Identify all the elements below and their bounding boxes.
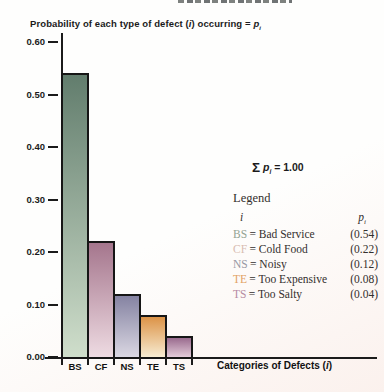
- cropped-page-text-remnant: [178, 0, 292, 3]
- legend-entry-value: (0.22): [350, 242, 378, 257]
- legend-entry-name: TE = Too Expensive: [233, 272, 327, 287]
- y-tick-label: 0.30: [13, 194, 45, 205]
- bar-ns: [113, 294, 141, 359]
- y-tick-label: 0.10: [13, 299, 45, 310]
- y-tick-mark: [48, 146, 58, 148]
- legend-row-cf: CF = Cold Food(0.22): [233, 242, 378, 257]
- x-category-label-te: TE: [140, 361, 166, 372]
- legend-entry-name: BS = Bad Service: [233, 227, 315, 242]
- legend-row-ts: TS = Too Salty(0.04): [233, 287, 378, 302]
- bar-cf: [87, 241, 115, 359]
- sum-probability-annotation: Σ pi = 1.00: [252, 160, 304, 175]
- sigma-icon: Σ: [252, 160, 260, 175]
- bar-chart-figure: Probability of each type of defect (i) o…: [0, 0, 384, 392]
- legend-entry-name: CF = Cold Food: [233, 242, 308, 257]
- bar-bs: [61, 73, 89, 359]
- legend-column-p-subscript: i: [364, 218, 366, 226]
- y-tick-label: 0.60: [13, 36, 45, 47]
- legend-row-te: TE = Too Expensive(0.08): [233, 272, 378, 287]
- x-tick-mark: [87, 358, 89, 365]
- y-tick-label: 0.00: [13, 351, 45, 362]
- y-tick-mark: [48, 356, 58, 358]
- legend-heading: Legend: [233, 191, 378, 206]
- x-category-label-ns: NS: [114, 361, 140, 372]
- legend-entry-value: (0.08): [350, 272, 378, 287]
- x-axis-title-text: Categories of Defects (: [217, 360, 326, 371]
- y-tick-mark: [48, 94, 58, 96]
- y-tick-mark: [48, 251, 58, 253]
- bar-te: [139, 315, 167, 359]
- x-category-label-ts: TS: [166, 361, 192, 372]
- legend-column-p: pi: [358, 211, 366, 226]
- legend-code: BS: [233, 228, 247, 240]
- y-tick-mark: [48, 199, 58, 201]
- x-tick-mark: [139, 358, 141, 365]
- legend-entry-value: (0.12): [350, 257, 378, 272]
- legend-row-ns: NS = Noisy(0.12): [233, 257, 378, 272]
- y-tick-label: 0.50: [13, 89, 45, 100]
- chart-title: Probability of each type of defect (i) o…: [30, 18, 261, 31]
- y-tick-label: 0.40: [13, 141, 45, 152]
- chart-title-text-2: ) occurring =: [192, 18, 254, 29]
- chart-title-p-subscript: i: [259, 25, 261, 31]
- legend-row-bs: BS = Bad Service(0.54): [233, 227, 378, 242]
- x-category-label-cf: CF: [88, 361, 114, 372]
- legend-code: CF: [233, 243, 247, 255]
- y-tick-mark: [48, 304, 58, 306]
- chart-title-text: Probability of each type of defect (: [30, 18, 189, 29]
- legend-column-i: i: [240, 211, 243, 226]
- legend-column-headers: i pi: [233, 211, 378, 226]
- legend-rows: BS = Bad Service(0.54)CF = Cold Food(0.2…: [233, 227, 378, 302]
- bar-ts: [165, 336, 193, 359]
- y-tick-label: 0.20: [13, 246, 45, 257]
- annotation-value: = 1.00: [274, 161, 304, 173]
- legend-entry-name: TS = Too Salty: [233, 287, 302, 302]
- x-tick-mark: [61, 358, 63, 365]
- x-tick-mark: [113, 358, 115, 365]
- legend-code: TE: [233, 273, 247, 285]
- x-axis-title: Categories of Defects (i): [217, 360, 332, 371]
- x-category-label-bs: BS: [62, 361, 88, 372]
- x-tick-mark: [191, 358, 193, 365]
- x-axis-title-text-2: ): [329, 360, 332, 371]
- legend-entry-value: (0.04): [350, 287, 378, 302]
- legend-block: Legend i pi BS = Bad Service(0.54)CF = C…: [233, 191, 378, 302]
- legend-entry-value: (0.54): [350, 227, 378, 242]
- y-tick-mark: [48, 41, 58, 43]
- annotation-p-subscript: i: [269, 168, 271, 175]
- legend-entry-name: NS = Noisy: [233, 257, 287, 272]
- legend-code: NS: [233, 258, 248, 270]
- x-tick-mark: [165, 358, 167, 365]
- legend-code: TS: [233, 288, 246, 300]
